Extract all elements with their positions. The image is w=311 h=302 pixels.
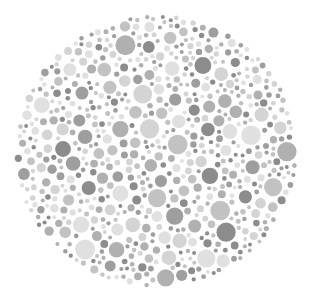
dot <box>85 108 89 112</box>
dot <box>120 140 128 148</box>
dot <box>109 242 125 258</box>
dot <box>193 149 197 153</box>
dot <box>243 244 247 248</box>
dot <box>292 163 297 168</box>
dot <box>236 94 240 98</box>
dot <box>173 164 181 172</box>
dot <box>230 193 235 198</box>
dot <box>169 24 173 28</box>
dot <box>267 160 271 164</box>
dot <box>98 261 102 265</box>
dot <box>101 217 106 222</box>
dot <box>155 175 167 187</box>
dot <box>92 122 98 128</box>
dot <box>153 66 158 71</box>
dot <box>71 58 75 62</box>
dot <box>24 148 31 155</box>
dot <box>36 152 42 158</box>
dot <box>55 62 59 66</box>
dot <box>95 29 101 35</box>
dot <box>260 99 267 106</box>
dot <box>114 62 119 67</box>
dot <box>116 91 121 96</box>
dot <box>236 144 240 148</box>
dot <box>73 115 85 127</box>
dot <box>197 205 204 212</box>
dot <box>155 152 163 160</box>
dot <box>106 164 113 171</box>
dot <box>52 215 56 219</box>
dot <box>82 181 96 195</box>
dot <box>219 42 223 46</box>
dot <box>101 224 106 229</box>
dot <box>26 105 30 109</box>
dot <box>245 74 249 78</box>
dot <box>144 271 149 276</box>
dot <box>19 140 26 147</box>
dot <box>134 241 139 246</box>
dot <box>89 86 93 90</box>
dot <box>162 145 166 149</box>
dot <box>89 100 93 104</box>
dot <box>77 192 81 196</box>
dot <box>130 182 138 190</box>
dot <box>253 75 262 84</box>
dot <box>205 45 213 53</box>
dot <box>91 105 96 110</box>
dot <box>217 130 221 134</box>
dot <box>57 123 69 135</box>
dot <box>221 159 226 164</box>
dot <box>227 117 231 121</box>
dot <box>223 124 238 139</box>
dot <box>37 163 46 172</box>
dot <box>157 269 174 286</box>
dot <box>268 202 278 212</box>
dot <box>193 92 197 96</box>
dot <box>93 115 98 120</box>
dot <box>272 168 277 173</box>
dot <box>20 183 24 187</box>
dot <box>27 157 35 165</box>
dot <box>42 129 53 140</box>
dot <box>202 168 218 184</box>
dot <box>273 158 280 165</box>
dot <box>108 236 112 240</box>
dot <box>283 190 288 195</box>
dot <box>128 58 132 62</box>
dot <box>154 84 164 94</box>
dot <box>22 110 32 120</box>
dot <box>175 24 180 29</box>
dot <box>195 213 199 217</box>
dot <box>108 43 113 48</box>
dot <box>215 242 221 248</box>
dot <box>158 26 162 30</box>
dot <box>234 211 239 216</box>
dot <box>183 264 187 268</box>
dot <box>110 51 117 58</box>
dot <box>151 17 155 21</box>
dot <box>54 77 63 86</box>
dot <box>192 200 196 204</box>
dot <box>231 73 236 78</box>
dot <box>261 162 267 168</box>
dot <box>270 136 277 143</box>
dot <box>264 178 282 196</box>
dot <box>190 20 195 25</box>
dot <box>25 187 30 192</box>
dot <box>132 248 137 253</box>
dot <box>117 57 121 61</box>
dot <box>141 187 146 192</box>
dot <box>30 195 36 201</box>
dot <box>39 77 43 81</box>
dot <box>264 85 269 90</box>
dot <box>182 56 189 63</box>
dot <box>104 29 109 34</box>
dot <box>179 28 188 37</box>
dot <box>100 240 108 248</box>
dot <box>169 94 181 106</box>
dot <box>55 220 62 227</box>
dot <box>179 251 183 255</box>
dot <box>205 231 209 235</box>
dot <box>138 251 143 256</box>
dot <box>110 116 114 120</box>
